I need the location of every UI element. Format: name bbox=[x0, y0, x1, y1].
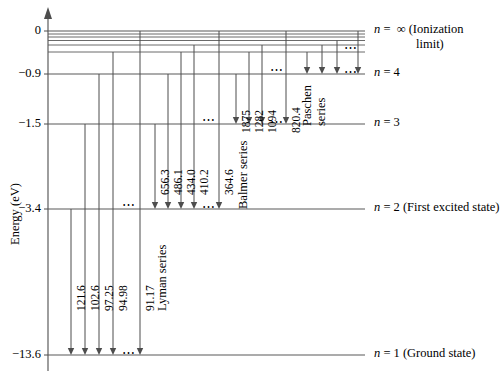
level-label-n-3: n = 3 bbox=[374, 115, 400, 130]
y-tick-label-0: 0 bbox=[35, 23, 41, 38]
series-ellipsis-top-0: ⋯ bbox=[122, 197, 136, 213]
series-label-lyman: Lyman series bbox=[155, 245, 170, 311]
transition-1-0-head bbox=[152, 202, 158, 209]
series-label-balmer: Balmer series bbox=[236, 141, 251, 209]
level-label-n-2: n = 2 (First excited state) bbox=[374, 200, 499, 215]
wavelength-label-1-3: 410.2 bbox=[198, 169, 210, 195]
series-ellipsis-bottom-2: ⋯ bbox=[270, 114, 284, 130]
y-axis-title: Energy (eV) bbox=[8, 183, 23, 245]
transition-0-2-head bbox=[96, 348, 102, 355]
series-ellipsis-top-1: ⋯ bbox=[202, 112, 216, 128]
transition-1-4-head bbox=[216, 202, 222, 209]
transition-0-3-head bbox=[110, 348, 116, 355]
y-tick-label-2: −1.5 bbox=[18, 116, 41, 131]
level-label-n-infinity: n = ∞ (Ionization bbox=[374, 22, 464, 37]
transition-0-0-head bbox=[68, 348, 74, 355]
wavelength-label-0-0: 121.6 bbox=[75, 285, 87, 311]
y-tick-label-4: −13.6 bbox=[12, 347, 41, 362]
transition-3-0-head bbox=[304, 67, 310, 74]
level-label-n-1: n = 1 (Ground state) bbox=[374, 346, 475, 361]
level-label-n-infinity-line2: limit) bbox=[416, 37, 444, 52]
wavelength-label-1-1: 486.1 bbox=[172, 169, 184, 195]
series-ellipsis-bottom-1: ⋯ bbox=[202, 199, 216, 215]
series-ellipsis-bottom-3: ⋯ bbox=[344, 64, 358, 80]
transition-3-2-head bbox=[334, 67, 340, 74]
level-label-n-4: n = 4 bbox=[374, 65, 400, 80]
y-tick-label-1: −0.9 bbox=[18, 66, 41, 81]
transition-2-0-head bbox=[233, 117, 239, 124]
wavelength-label-0-1: 102.6 bbox=[89, 285, 101, 311]
wavelength-label-1-0: 656.3 bbox=[159, 169, 171, 195]
transition-0-4-head bbox=[137, 348, 143, 355]
series-label-paschen-1: Paschen bbox=[300, 85, 315, 126]
series-label-paschen-2: series bbox=[314, 98, 329, 126]
wavelength-label-0-3: 94.98 bbox=[117, 285, 129, 311]
wavelength-label-0-2: 97.25 bbox=[103, 285, 115, 311]
energy-level-diagram: 0−0.9−1.5−3.4−13.6Energy (eV)n = ∞ (Ioni… bbox=[0, 0, 501, 371]
y-axis-arrow bbox=[44, 7, 52, 19]
wavelength-label-1-4: 364.6 bbox=[223, 169, 235, 195]
transition-1-1-head bbox=[165, 202, 171, 209]
series-ellipsis-top-3: ⋯ bbox=[344, 40, 358, 56]
series-ellipsis-top-2: ⋯ bbox=[270, 62, 284, 78]
transition-0-1-head bbox=[82, 348, 88, 355]
wavelength-label-2-1: 1282 bbox=[253, 110, 265, 133]
wavelength-label-2-0: 1875 bbox=[240, 110, 252, 133]
series-ellipsis-bottom-0: ⋯ bbox=[122, 345, 136, 361]
transition-2-3-head bbox=[283, 117, 289, 124]
transition-1-2-head bbox=[178, 202, 184, 209]
transition-3-1-head bbox=[319, 67, 325, 74]
wavelength-label-1-2: 434.0 bbox=[185, 169, 197, 195]
transition-1-3-head bbox=[191, 202, 197, 209]
